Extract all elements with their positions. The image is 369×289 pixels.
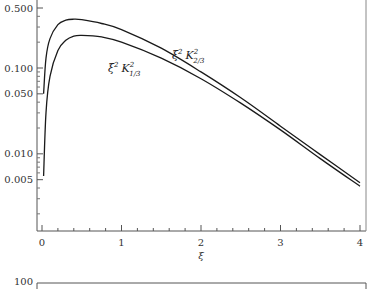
y-tick-label: 0.100 [4,63,33,74]
curve-label-k23: ξ2K22/3 [172,48,205,65]
chart: 0.5000.1000.0500.0100.005 01234 ξ ξ2K22/… [0,0,369,289]
x-tick-label: 4 [357,237,363,248]
y-tick-label: 0.005 [4,174,33,185]
x-tick-label: 1 [118,237,124,248]
x-tick-label: 3 [277,237,283,248]
y-tick-label: 0.500 [4,3,33,14]
curve-label-k13: ξ2K21/3 [108,61,141,78]
curves [44,19,360,186]
y-tick-label: 0.010 [4,148,33,159]
plot-frame [37,0,366,231]
x-tick-label: 2 [198,237,204,248]
x-tick-label: 0 [39,237,45,248]
y-tick-label: 0.050 [4,88,33,99]
svg-text:100: 100 [14,276,33,287]
curve-k23 [44,19,360,183]
next-plot-top: 100 [14,276,366,289]
x-axis-label: ξ [198,250,204,261]
x-axis-ticks: 01234 [39,225,363,248]
